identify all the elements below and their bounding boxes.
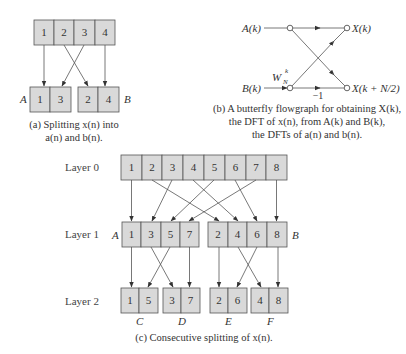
arrow-icon bbox=[62, 45, 84, 86]
node bbox=[287, 85, 293, 91]
figure-b-butterfly: A(k) B(k) W N k −1 X(k) X(k + N/2) (b) A… bbox=[213, 22, 401, 141]
figure-c: Layer 0 Layer 1 Layer 2 1 2 3 4 5 6 7 8 bbox=[65, 155, 299, 344]
cell-value: 5 bbox=[146, 294, 152, 306]
cell-value: 1 bbox=[129, 161, 135, 173]
cell-value: 8 bbox=[274, 228, 280, 240]
cell-value: 4 bbox=[257, 294, 263, 306]
layer-1-group-a: 1 3 5 7 bbox=[122, 222, 199, 247]
edge bbox=[332, 30, 345, 43]
cell-value: 7 bbox=[187, 228, 193, 240]
twiddle-w: W bbox=[272, 71, 282, 83]
cell-value: 2 bbox=[216, 294, 222, 306]
group-a-label: A bbox=[19, 93, 27, 105]
cell-value: 7 bbox=[188, 294, 194, 306]
edge bbox=[292, 30, 334, 75]
figure-a: 1 2 3 4 A 1 3 2 4 B (a) Splitting x(n) i… bbox=[19, 20, 131, 144]
cell-value: 6 bbox=[254, 228, 260, 240]
cell-value: 5 bbox=[168, 228, 174, 240]
node bbox=[344, 25, 350, 31]
minus-one-label: −1 bbox=[313, 90, 324, 101]
layer-2-group-e: 2 6 E bbox=[210, 288, 247, 327]
cell-value: 5 bbox=[212, 161, 218, 173]
cell-value: 3 bbox=[58, 93, 64, 105]
cell-value: 6 bbox=[235, 294, 241, 306]
cell-value: 2 bbox=[85, 93, 91, 105]
figure-b-caption-line3: the DFTs of a(n) and b(n). bbox=[252, 129, 362, 141]
arrow-icon bbox=[151, 247, 173, 287]
layer-1-group-b-label: B bbox=[292, 229, 299, 241]
cell-value: 1 bbox=[127, 294, 133, 306]
edge bbox=[292, 41, 334, 86]
cell-value: 4 bbox=[191, 161, 197, 173]
node bbox=[287, 25, 293, 31]
node bbox=[344, 85, 350, 91]
cell-value: 3 bbox=[169, 294, 175, 306]
group-b-label: B bbox=[124, 93, 131, 105]
layer-2-group-c: 1 5 C bbox=[121, 288, 158, 327]
input-b-label: B(k) bbox=[242, 82, 261, 95]
group-label: F bbox=[266, 315, 274, 327]
arrow-icon bbox=[238, 247, 261, 287]
figure-a-caption-line1: (a) Splitting x(n) into bbox=[29, 119, 119, 131]
twiddle-superscript: k bbox=[285, 67, 289, 75]
layer-0-row: 1 2 3 4 5 6 7 8 bbox=[121, 155, 287, 180]
twiddle-factor: W N k bbox=[272, 67, 289, 86]
cell-value: 4 bbox=[106, 93, 112, 105]
layer-2-group-f: 4 8 F bbox=[251, 288, 288, 327]
cell-value: 3 bbox=[170, 161, 176, 173]
cell-value: 2 bbox=[215, 228, 221, 240]
cell-value: 7 bbox=[253, 161, 259, 173]
cell-value: 4 bbox=[235, 228, 241, 240]
layer-2-label: Layer 2 bbox=[65, 295, 99, 307]
figure-c-caption: (c) Consecutive splitting of x(n). bbox=[135, 332, 272, 344]
cell-value: 8 bbox=[276, 294, 282, 306]
layer-1-label: Layer 1 bbox=[65, 228, 99, 240]
cell-value: 6 bbox=[233, 161, 239, 173]
arrow-icon bbox=[237, 247, 257, 287]
layer-1-to-2-arrows bbox=[132, 247, 279, 287]
cell-value: 1 bbox=[37, 93, 43, 105]
edge bbox=[332, 73, 345, 86]
group-label: E bbox=[224, 315, 232, 327]
group-label: C bbox=[136, 315, 144, 327]
cell-value: 1 bbox=[41, 26, 47, 38]
layer-2-group-d: 3 7 D bbox=[163, 288, 200, 327]
figure-a-caption-line2: a(n) and b(n). bbox=[45, 132, 102, 144]
arrow-icon bbox=[171, 180, 214, 221]
layer-1-group-a-label: A bbox=[111, 229, 119, 241]
figure-a-top-row: 1 2 3 4 bbox=[34, 20, 115, 45]
arrow-icon bbox=[64, 45, 88, 86]
layer-0-to-1-arrows bbox=[132, 180, 277, 221]
layer-1-group-b: 2 4 6 8 bbox=[208, 222, 287, 247]
cell-value: 4 bbox=[102, 26, 108, 38]
figure-b-caption-line1: (b) A butterfly flowgraph for obtaining … bbox=[213, 103, 401, 115]
output-bottom-label: X(k + N/2) bbox=[351, 82, 400, 95]
arrow-icon bbox=[148, 247, 170, 287]
group-label: D bbox=[177, 315, 186, 327]
cell-value: 1 bbox=[129, 228, 135, 240]
twiddle-subscript: N bbox=[282, 78, 288, 86]
output-top-label: X(k) bbox=[351, 22, 371, 35]
figure-b-caption-line2: the DFT of x(n), from A(k) and B(k), bbox=[229, 116, 385, 128]
layer-0-label: Layer 0 bbox=[65, 161, 99, 173]
cell-value: 8 bbox=[274, 161, 280, 173]
cell-value: 2 bbox=[149, 161, 155, 173]
fft-splitting-diagram: 1 2 3 4 A 1 3 2 4 B (a) Splitting x(n) i… bbox=[0, 0, 406, 354]
figure-a-arrows bbox=[44, 45, 105, 86]
cell-value: 3 bbox=[82, 26, 88, 38]
cell-value: 2 bbox=[61, 26, 67, 38]
cell-value: 3 bbox=[148, 228, 154, 240]
input-a-label: A(k) bbox=[241, 22, 261, 35]
